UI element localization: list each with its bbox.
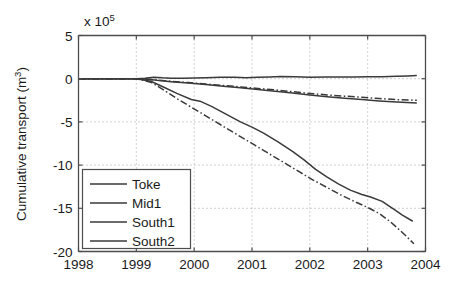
x-tick-label: 2003 [353,257,383,272]
y-tick-label: -10 [53,158,73,173]
legend-label-south2: South2 [132,234,175,249]
series-line-south1 [79,79,417,103]
y-axis-multiplier: x 105 [84,12,115,29]
x-tick-label: 2002 [295,257,325,272]
y-tick-label: 0 [65,72,73,87]
legend-label-toke: Toke [132,177,161,192]
legend-label-mid1: Mid1 [132,196,161,211]
x-tick-label: 1999 [121,257,151,272]
chart-legend: TokeMid1South1South2 [83,170,191,250]
x-tick-labels: 1998199920002001200220032004 [63,257,441,272]
x-tick-label: 2001 [237,257,267,272]
legend-label-south1: South1 [132,215,175,230]
y-tick-label: -5 [60,115,72,130]
y-tick-label: 5 [65,29,73,44]
y-axis-title: Cumulative transport (m3) [12,67,29,221]
y-tick-label: -20 [53,245,73,260]
chart-svg: 1998199920002001200220032004 50-5-10-15-… [0,0,462,290]
series-line-mid1 [79,79,417,101]
y-tick-labels: 50-5-10-15-20 [53,29,73,260]
x-tick-label: 2000 [179,257,209,272]
chart-figure: 1998199920002001200220032004 50-5-10-15-… [0,0,462,290]
x-tick-label: 2004 [410,257,441,272]
y-tick-label: -15 [53,201,73,216]
